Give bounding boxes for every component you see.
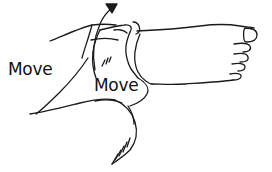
move-label-center: Move [94, 77, 138, 94]
lower-hand-drawing [30, 99, 136, 164]
foot-mobilization-illustration: Move Move [0, 0, 272, 172]
foot-drawing [133, 22, 257, 84]
move-label-left: Move [8, 61, 52, 78]
